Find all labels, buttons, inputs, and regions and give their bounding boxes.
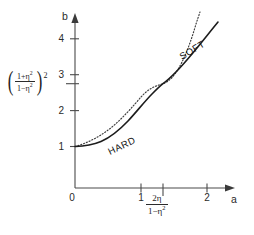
curve-dotted-asymptote (75, 12, 200, 147)
numerator-text-x: 2η (152, 193, 161, 203)
y-tick-label-2: 2 (58, 105, 64, 116)
region-label-hard: HARD (106, 134, 137, 157)
right-paren: ) (36, 68, 42, 95)
denominator-exponent-x: 2 (162, 204, 165, 211)
x-tick-label-1: 1 (138, 192, 144, 203)
left-paren: ( (8, 68, 14, 95)
x-axis-arrow-icon (225, 184, 235, 191)
fraction-numerator-x: 2η (146, 194, 168, 205)
x-axis-special-expression: 2η1−η2 (146, 194, 168, 216)
numerator-exponent: 2 (30, 70, 33, 76)
x-axis-name: a (231, 193, 237, 205)
denominator-exponent: 2 (30, 82, 33, 88)
denominator-text-x: 1−η (148, 206, 162, 216)
y-tick-label-1: 1 (58, 141, 64, 152)
region-label-soft: SOFT (177, 38, 206, 62)
numerator-text: 1+η (17, 72, 30, 81)
y-axis-group: 1 2 3 4 b (58, 10, 79, 188)
eta-fraction: 1+η21−η2 (15, 71, 35, 92)
y-tick-label-3: 3 (58, 69, 64, 80)
x-tick-label-2: 2 (204, 192, 210, 203)
y-axis-name: b (62, 10, 68, 22)
y-axis-arrow-icon (71, 13, 78, 23)
fraction-denominator-x: 1−η2 (146, 205, 168, 217)
x-tick-label-0: 0 (69, 192, 75, 203)
fraction-numerator: 1+η2 (15, 71, 35, 82)
y-axis-special-expression: (1+η21−η2)2 (6, 68, 48, 95)
denominator-text: 1−η (17, 83, 30, 92)
fraction-denominator: 1−η2 (15, 82, 35, 92)
plot-canvas: 1 2 3 4 b 0 1 2 a HARD SOFT (0, 0, 254, 235)
eta-fraction-x: 2η1−η2 (146, 194, 168, 216)
y-tick-label-4: 4 (58, 33, 64, 44)
outer-exponent: 2 (44, 72, 48, 80)
stability-diagram-figure: 1 2 3 4 b 0 1 2 a HARD SOFT (1+η2 (0, 0, 254, 235)
